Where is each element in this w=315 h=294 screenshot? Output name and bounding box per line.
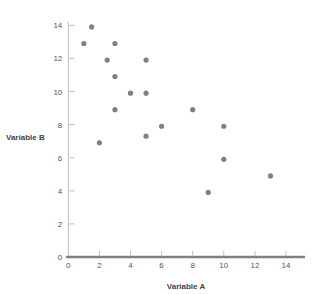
x-tick-label: 2	[97, 261, 102, 270]
data-point	[128, 91, 133, 96]
y-tick-label: 6	[58, 154, 63, 163]
scatter-chart: 02468101214 02468101214 Variable A Varia…	[0, 0, 315, 294]
x-axis: 02468101214	[66, 251, 305, 270]
data-point	[143, 91, 148, 96]
x-tick-label: 14	[282, 261, 291, 270]
y-axis-title: Variable B	[6, 133, 45, 142]
data-point	[190, 107, 195, 112]
y-tick-group: 02468101214	[53, 21, 74, 262]
data-point	[97, 140, 102, 145]
x-tick-label: 6	[159, 261, 164, 270]
chart-canvas: 02468101214 02468101214 Variable A Varia…	[0, 0, 315, 294]
y-tick-label: 14	[53, 21, 62, 30]
x-axis-title: Variable A	[167, 282, 206, 291]
data-point	[143, 57, 148, 62]
data-point	[81, 41, 86, 46]
x-tick-label: 12	[250, 261, 259, 270]
data-point	[105, 57, 110, 62]
data-points-layer	[81, 24, 273, 195]
data-point	[112, 107, 117, 112]
x-tick-label: 8	[190, 261, 195, 270]
data-point	[206, 190, 211, 195]
data-point	[89, 24, 94, 29]
x-tick-group: 02468101214	[66, 251, 291, 270]
x-tick-label: 10	[219, 261, 228, 270]
data-point	[268, 173, 273, 178]
data-point	[221, 124, 226, 129]
y-tick-label: 10	[53, 88, 62, 97]
x-tick-label: 0	[66, 261, 71, 270]
data-point	[143, 134, 148, 139]
data-point	[221, 157, 226, 162]
data-point	[112, 74, 117, 79]
data-point	[159, 124, 164, 129]
y-tick-label: 0	[58, 253, 63, 262]
y-tick-label: 4	[58, 187, 63, 196]
x-tick-label: 4	[128, 261, 133, 270]
y-tick-label: 12	[53, 54, 62, 63]
y-tick-label: 8	[58, 121, 63, 130]
y-tick-label: 2	[58, 220, 63, 229]
data-point	[112, 41, 117, 46]
y-axis: 02468101214	[53, 21, 74, 262]
